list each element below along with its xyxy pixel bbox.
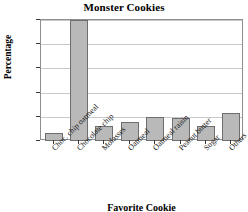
y-tick-mark [36, 19, 40, 20]
y-tick-mark [36, 140, 40, 141]
y-tick-mark [36, 116, 40, 117]
y-tick-mark [36, 67, 40, 68]
x-axis-title: Favorite Cookie [40, 202, 243, 212]
y-tick-mark [36, 43, 40, 44]
y-axis-title: Percentage [3, 21, 13, 93]
monster-cookies-bar-chart: Monster Cookies Percentage 01020304050 C… [0, 0, 248, 212]
chart-title: Monster Cookies [0, 1, 248, 13]
y-tick-mark [36, 92, 40, 93]
